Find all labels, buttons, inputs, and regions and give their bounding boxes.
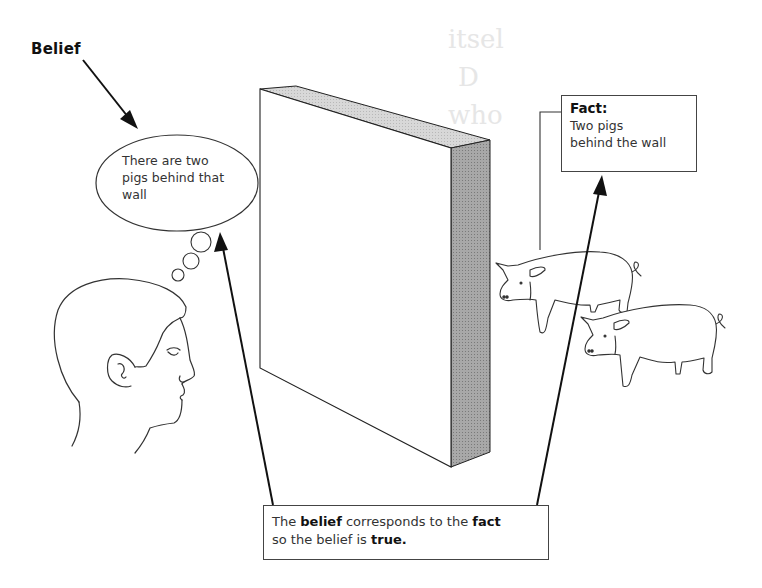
conclusion-box: The belief corresponds to the fact so th… xyxy=(263,505,549,560)
conclusion-line-1: The belief corresponds to the fact xyxy=(272,513,548,531)
thought-line: wall xyxy=(122,186,224,203)
belief-arrow xyxy=(83,60,138,129)
person-head xyxy=(54,279,194,453)
conclusion-keyword-true: true. xyxy=(371,532,407,547)
conclusion-keyword-belief: belief xyxy=(300,514,342,529)
conclusion-text: The xyxy=(272,514,300,529)
fact-box: Fact: Two pigs behind the wall xyxy=(561,95,697,172)
thought-line: pigs behind that xyxy=(122,169,224,186)
conclusion-line-2: so the belief is true. xyxy=(272,531,548,549)
fact-connector xyxy=(540,112,561,250)
pig-icon xyxy=(581,305,725,387)
thought-bubble-text: There are two pigs behind that wall xyxy=(122,152,224,203)
conclusion-text: so the belief is xyxy=(272,532,371,547)
fact-title: Fact: xyxy=(570,100,696,117)
conclusion-text: corresponds to the xyxy=(342,514,472,529)
fact-line: behind the wall xyxy=(570,134,696,151)
belief-label: Belief xyxy=(31,40,81,58)
diagram-canvas xyxy=(0,0,762,588)
wall xyxy=(260,86,490,467)
conclusion-keyword-fact: fact xyxy=(472,514,500,529)
thought-line: There are two xyxy=(122,152,224,169)
fact-line: Two pigs xyxy=(570,117,696,134)
